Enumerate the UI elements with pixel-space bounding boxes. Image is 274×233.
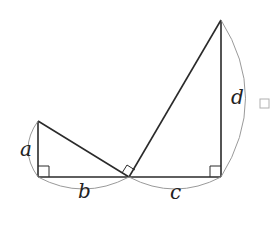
shared-vertex-right-angle-marker [122, 165, 135, 173]
label-c: c [170, 180, 181, 204]
diagram-canvas: a b c d [0, 0, 274, 233]
geometry-figure: a b c d [0, 0, 274, 233]
right-triangle [129, 20, 221, 177]
left-triangle [38, 121, 129, 177]
label-d: d [231, 85, 244, 109]
label-a: a [20, 137, 32, 161]
answer-box [260, 99, 269, 108]
label-b: b [78, 179, 91, 203]
